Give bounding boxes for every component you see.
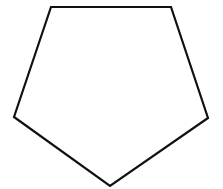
pentagon-shape (14, 7, 208, 186)
diagram-canvas (0, 0, 223, 189)
pentagon-diagram (0, 0, 223, 189)
